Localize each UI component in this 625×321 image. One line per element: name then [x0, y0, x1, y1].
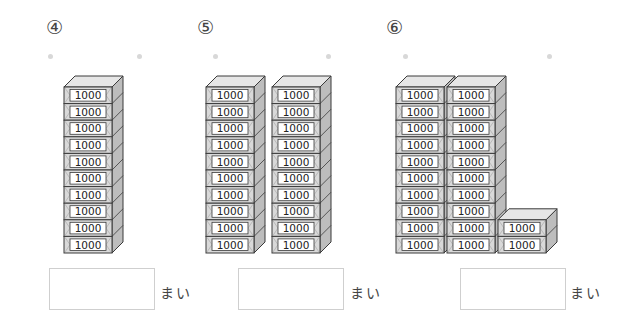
answer-box-6[interactable]: [460, 268, 566, 310]
unit-label-6: まい: [570, 282, 602, 302]
svg-text:1000: 1000: [509, 222, 536, 234]
svg-text:1000: 1000: [509, 239, 536, 251]
